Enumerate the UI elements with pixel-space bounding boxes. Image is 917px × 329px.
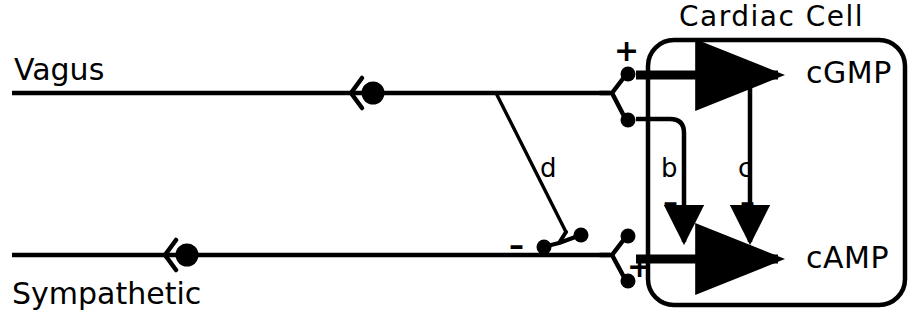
pathway-c-minus-sign: –: [740, 187, 755, 217]
pathway-d-terminal-icon: [537, 228, 589, 255]
pathway-a-label: a: [700, 40, 716, 66]
pathway-b-label: b: [661, 155, 678, 181]
pathway-d-minus-sign: –: [509, 230, 524, 260]
pathway-b-minus-sign: –: [663, 187, 678, 217]
vagus-label: Vagus: [14, 55, 104, 85]
sympathetic-terminal-plus-sign: +: [627, 252, 652, 282]
camp-label: cAMP: [806, 243, 889, 273]
cgmp-label: cGMP: [806, 58, 892, 88]
vagus-terminal-plus-sign: +: [614, 36, 639, 66]
cardiac-cell-title: Cardiac Cell: [679, 3, 864, 31]
vagus-nerve-terminal-icon: [600, 67, 636, 128]
cardiac-cell-signaling-diagram: Vagus Sympathetic Cardiac Cell cGMP cAMP…: [0, 0, 917, 329]
sympathetic-label: Sympathetic: [12, 279, 201, 309]
pathway-d-label: d: [540, 155, 557, 181]
pathway-c-label: c: [738, 155, 752, 181]
